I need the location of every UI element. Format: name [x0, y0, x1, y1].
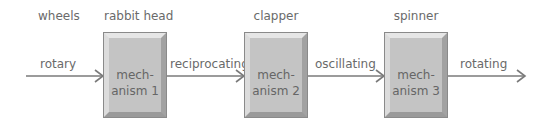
mechanism-2-box: mech- anism 2: [245, 33, 307, 117]
arrow-rotary: [26, 70, 103, 82]
mechanism-1-box: mech- anism 1: [104, 33, 166, 117]
mechanism-3-line2: anism 3: [390, 83, 442, 99]
arrow-rotating: [447, 70, 525, 82]
motion-rotary: rotary: [40, 57, 76, 71]
label-rabbit-head: rabbit head: [104, 9, 166, 23]
mechanism-1-line1: mech-: [109, 67, 161, 83]
label-clapper: clapper: [245, 9, 307, 23]
motion-reciprocating: reciprocating: [170, 57, 249, 71]
arrow-oscillating: [308, 70, 384, 82]
motion-rotating: rotating: [460, 57, 507, 71]
mechanism-3-line1: mech-: [390, 67, 442, 83]
motion-oscillating: oscillating: [315, 57, 376, 71]
label-wheels: wheels: [38, 9, 80, 23]
label-spinner: spinner: [385, 9, 447, 23]
arrow-reciprocating: [167, 70, 244, 82]
mechanism-2-line2: anism 2: [250, 83, 302, 99]
mechanism-1-line2: anism 1: [109, 83, 161, 99]
mechanism-3-box: mech- anism 3: [385, 33, 447, 117]
mechanism-2-line1: mech-: [250, 67, 302, 83]
